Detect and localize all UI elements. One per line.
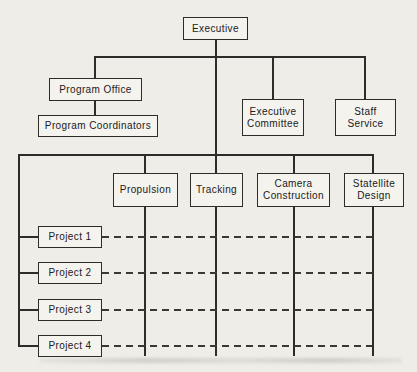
dashed-row-project4 (102, 345, 374, 347)
node-staff-service: Staff Service (335, 99, 396, 136)
node-propulsion: Propulsion (113, 173, 178, 207)
node-project-3: Project 3 (38, 299, 102, 321)
line-project-spine (18, 154, 20, 347)
line-camera-drop (293, 154, 295, 174)
node-satellite-design-label: Statellite Design (347, 178, 401, 202)
node-project-1-label: Project 1 (48, 231, 91, 243)
node-program-office: Program Office (49, 78, 142, 101)
line-project2-stub (18, 272, 39, 274)
node-program-coordinators-label: Program Coordinators (45, 120, 151, 132)
line-top-bus (94, 56, 366, 58)
line-division-bus (18, 154, 374, 156)
line-propulsion-column (144, 206, 146, 356)
node-project-3-label: Project 3 (48, 304, 91, 316)
node-tracking-label: Tracking (196, 184, 237, 196)
line-program-office-drop (94, 56, 96, 79)
line-staff-service-drop (364, 56, 366, 100)
node-executive: Executive (183, 17, 248, 40)
node-project-4-label: Project 4 (48, 340, 91, 352)
node-program-coordinators: Program Coordinators (38, 115, 158, 137)
node-executive-committee-label: Executive Committee (245, 106, 301, 130)
node-project-1: Project 1 (38, 226, 102, 248)
node-project-2-label: Project 2 (48, 267, 91, 279)
line-satellite-column (372, 206, 374, 356)
scan-smudge (40, 358, 402, 363)
dashed-row-project1 (102, 236, 374, 238)
node-camera-construction-label: Camera Construction (260, 178, 327, 202)
node-propulsion-label: Propulsion (120, 184, 171, 196)
dashed-row-project3 (102, 309, 374, 311)
line-propulsion-drop (144, 154, 146, 174)
line-project3-stub (18, 309, 39, 311)
line-program-coordinators-drop (94, 100, 96, 116)
node-executive-label: Executive (192, 23, 239, 35)
line-project4-stub (18, 345, 39, 347)
node-satellite-design: Statellite Design (344, 173, 404, 207)
node-executive-committee: Executive Committee (242, 99, 304, 136)
line-project1-stub (18, 236, 39, 238)
node-project-4: Project 4 (38, 335, 102, 357)
line-satellite-drop (372, 154, 374, 174)
node-tracking: Tracking (190, 173, 243, 207)
node-camera-construction: Camera Construction (257, 173, 330, 207)
node-project-2: Project 2 (38, 262, 102, 284)
node-program-office-label: Program Office (59, 84, 132, 96)
line-tracking-column (215, 206, 217, 356)
node-staff-service-label: Staff Service (338, 106, 393, 130)
line-camera-column (293, 206, 295, 356)
dashed-row-project2 (102, 272, 374, 274)
org-chart: Executive Program Office Program Coordin… (0, 0, 417, 372)
line-executive-committee-drop (272, 56, 274, 100)
